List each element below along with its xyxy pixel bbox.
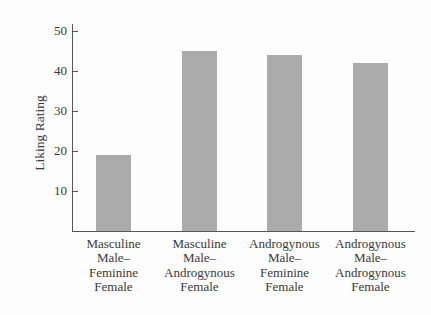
x-category-label-line: Androgynous [155, 266, 245, 280]
bar [267, 55, 302, 231]
x-category-label-line: Androgynous [240, 237, 330, 251]
y-tick [73, 31, 78, 32]
x-category-label-line: Feminine [69, 266, 159, 280]
y-tick-label: 40 [40, 64, 67, 78]
x-category-label-line: Female [69, 280, 159, 294]
x-axis [72, 231, 415, 232]
y-axis [72, 24, 73, 232]
bar [182, 51, 217, 231]
y-tick [73, 151, 78, 152]
x-category-label-line: Female [155, 280, 245, 294]
y-tick-label: 30 [40, 104, 67, 118]
x-category-label-line: Female [326, 280, 416, 294]
bar [353, 63, 388, 231]
x-category-label: MasculineMale–AndrogynousFemale [155, 237, 245, 294]
y-tick-label: 50 [40, 24, 67, 38]
y-tick [73, 111, 78, 112]
y-tick-label: 20 [40, 144, 67, 158]
x-category-label: AndrogynousMale–FeminineFemale [240, 237, 330, 294]
x-category-label-line: Masculine [155, 237, 245, 251]
x-category-label-line: Masculine [69, 237, 159, 251]
x-category-label-line: Male– [155, 251, 245, 265]
x-category-label-line: Androgynous [326, 266, 416, 280]
x-category-label-line: Androgynous [326, 237, 416, 251]
x-category-label-line: Male– [69, 251, 159, 265]
x-category-label-line: Male– [326, 251, 416, 265]
x-category-label-line: Male– [240, 251, 330, 265]
bar-chart: Liking Rating 1020304050 MasculineMale–F… [0, 0, 431, 315]
y-tick-label: 10 [40, 184, 67, 198]
x-category-label: MasculineMale–FeminineFemale [69, 237, 159, 294]
x-category-label-line: Feminine [240, 266, 330, 280]
x-category-label: AndrogynousMale–AndrogynousFemale [326, 237, 416, 294]
x-category-label-line: Female [240, 280, 330, 294]
bar [96, 155, 131, 231]
y-tick [73, 191, 78, 192]
y-tick [73, 71, 78, 72]
